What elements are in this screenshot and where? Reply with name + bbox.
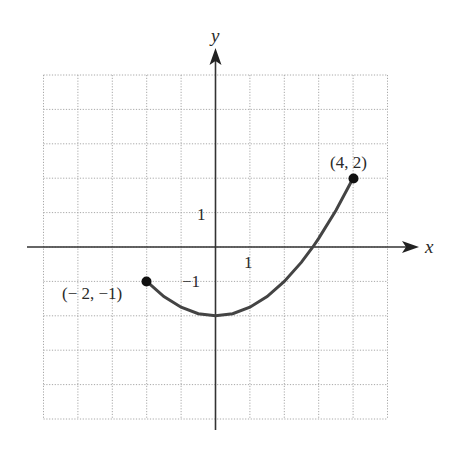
start-point-label: (− 2, −1) <box>62 284 122 303</box>
end-point-marker <box>349 174 359 184</box>
y-axis <box>210 48 222 430</box>
x-axis-label: x <box>424 236 434 257</box>
y-tick-label-neg1: −1 <box>182 272 200 291</box>
x-axis <box>27 241 419 253</box>
graph-figure: x y 1 1 −1 (− 2, −1) (4, 2) <box>0 0 455 455</box>
x-tick-label-1: 1 <box>244 253 253 272</box>
y-axis-label: y <box>209 25 220 46</box>
end-point-label: (4, 2) <box>330 153 367 172</box>
graph-canvas: x y 1 1 −1 (− 2, −1) (4, 2) <box>0 0 455 455</box>
y-tick-label-1: 1 <box>197 205 206 224</box>
start-point-marker <box>142 277 152 287</box>
